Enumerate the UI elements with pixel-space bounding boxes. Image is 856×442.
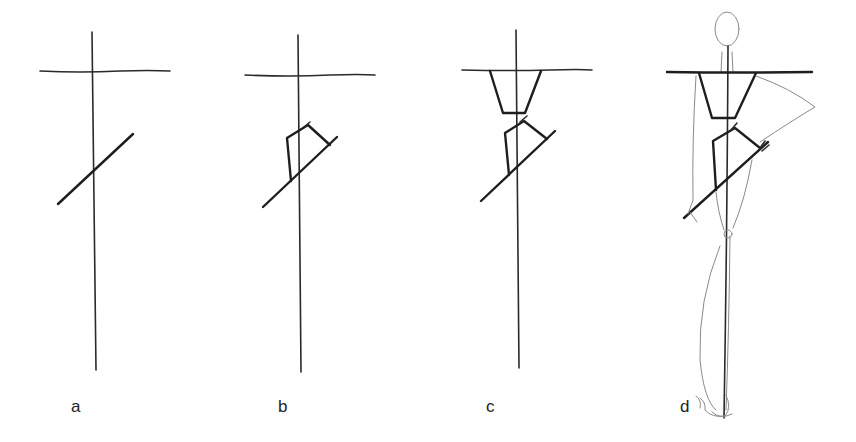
panel-b-center-line <box>298 35 301 372</box>
panel-d-hip-line <box>684 142 768 218</box>
panel-d-left-arm <box>688 76 697 222</box>
panel-a-shoulder-line <box>40 71 170 73</box>
panel-d-head <box>715 12 739 46</box>
panel-b-label: b <box>278 398 287 415</box>
panel-c-center-line <box>516 30 519 368</box>
panel-b-pelvis-block <box>287 125 330 181</box>
panel-d-upper-leg-left <box>716 192 724 230</box>
panel-d-label: d <box>680 398 689 415</box>
panel-d-lower-leg-curve <box>700 246 720 410</box>
panel-c-drawing <box>462 30 592 368</box>
panel-d-neck <box>721 52 733 72</box>
panel-d-foot <box>700 395 732 417</box>
panel-a-label: a <box>71 398 80 415</box>
panel-b-drawing <box>245 35 375 372</box>
panel-d-drawing <box>667 12 815 418</box>
panel-a-hip-line <box>58 134 133 204</box>
panel-d-right-arm <box>756 76 815 142</box>
panel-c-shoulder-line <box>462 70 592 71</box>
panel-d-pelvis-block <box>713 128 760 190</box>
panel-c-chest-trapezoid <box>490 71 541 113</box>
panel-b-shoulder-line <box>245 75 375 77</box>
panel-c-label: c <box>486 398 495 415</box>
panel-d-knee-circle <box>724 230 732 238</box>
figure-drawing-steps <box>0 0 856 442</box>
panel-a-drawing <box>40 32 170 370</box>
panel-d-shoulder-line <box>667 72 812 73</box>
panel-c-pelvis-block <box>505 121 547 175</box>
panel-a-center-line <box>92 32 96 370</box>
